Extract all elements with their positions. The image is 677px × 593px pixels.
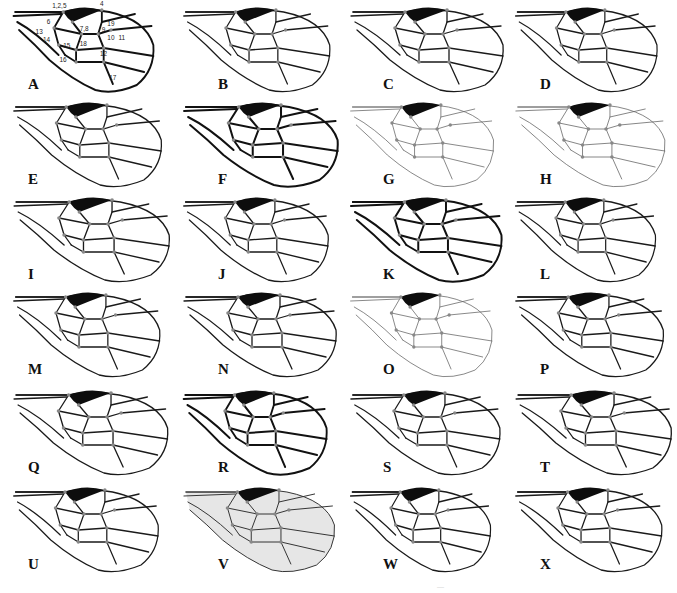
wing-panel-h: H xyxy=(510,95,677,192)
panel-label-u: U xyxy=(28,556,39,573)
panel-label-q: Q xyxy=(28,459,40,476)
wing-panel-f: F xyxy=(178,95,348,192)
landmark-number-15: 15 xyxy=(63,42,70,49)
landmark-number-78: 7,8 xyxy=(80,25,89,32)
wing-panel-v: V xyxy=(178,480,348,577)
wing-drawing xyxy=(178,480,346,577)
panel-label-w: W xyxy=(383,556,398,573)
wing-drawing xyxy=(345,190,513,287)
panel-label-h: H xyxy=(540,171,552,188)
wing-panel-k: K xyxy=(345,190,515,287)
wing-panel-i: I xyxy=(8,190,178,287)
wing-drawing xyxy=(510,190,666,287)
wing-panel-g: G xyxy=(345,95,515,192)
landmark-number-1: 1,2,5 xyxy=(52,2,67,9)
panel-label-d: D xyxy=(540,76,551,93)
landmark-number-17: 17 xyxy=(109,74,116,81)
wing-drawing xyxy=(178,383,338,480)
wing-panel-t: T xyxy=(510,383,677,480)
wing-panel-c: C xyxy=(345,0,515,97)
wing-drawing xyxy=(345,95,505,192)
panel-label-a: A xyxy=(28,76,39,93)
wing-panel-d: D xyxy=(510,0,677,97)
panel-label-n: N xyxy=(218,361,229,378)
wing-drawing xyxy=(345,0,515,97)
panel-label-v: V xyxy=(218,556,229,573)
landmark-number-13: 13 xyxy=(36,28,43,35)
wing-panel-o: O xyxy=(345,285,515,382)
landmark-number-4: 4 xyxy=(100,0,104,7)
wing-drawing xyxy=(178,190,340,287)
wing-panel-u: U xyxy=(8,480,178,577)
landmark-number-16: 16 xyxy=(60,56,67,63)
panel-label-b: B xyxy=(218,76,228,93)
wing-drawing xyxy=(510,383,677,480)
wing-drawing xyxy=(510,480,673,577)
landmark-number-12: 12 xyxy=(100,50,107,57)
wing-panel-l: L xyxy=(510,190,677,287)
landmark-number-6: 6 xyxy=(47,18,51,25)
landmark-number-14: 14 xyxy=(43,36,50,43)
panel-label-o: O xyxy=(383,361,395,378)
figure-footnote-mark: ― xyxy=(437,583,444,591)
panel-label-m: M xyxy=(28,361,42,378)
landmark-number-9: 9 xyxy=(102,26,106,33)
panel-label-x: X xyxy=(540,556,551,573)
wing-panel-q: Q xyxy=(8,383,178,480)
wing-panel-x: X xyxy=(510,480,677,577)
wing-panel-a: 1,2,54613147,891910111518121617 A xyxy=(8,0,178,97)
landmark-number-18: 18 xyxy=(80,40,87,47)
panel-label-s: S xyxy=(383,459,391,476)
panel-label-r: R xyxy=(218,459,229,476)
panel-label-p: P xyxy=(540,361,549,378)
wing-panel-m: M xyxy=(8,285,178,382)
wing-drawing xyxy=(510,0,668,97)
wing-plate: 1,2,54613147,891910111518121617 A xyxy=(0,0,677,580)
wing-drawing xyxy=(178,0,341,97)
wing-panel-e: E xyxy=(8,95,178,192)
wing-drawing xyxy=(345,285,503,382)
wing-drawing xyxy=(510,285,675,382)
wing-panel-r: R xyxy=(178,383,348,480)
panel-label-k: K xyxy=(383,266,395,283)
landmark-number-11: 11 xyxy=(118,34,125,41)
wing-drawing xyxy=(8,190,181,287)
panel-label-f: F xyxy=(218,171,227,188)
wing-drawing xyxy=(178,285,348,382)
wing-drawing xyxy=(178,95,350,192)
wing-panel-j: J xyxy=(178,190,348,287)
wing-panel-s: S xyxy=(345,383,515,480)
wing-panel-b: B xyxy=(178,0,348,97)
wing-panel-p: P xyxy=(510,285,677,382)
landmark-number-19: 19 xyxy=(107,20,114,27)
panel-label-t: T xyxy=(540,459,550,476)
panel-label-l: L xyxy=(540,266,550,283)
panel-label-j: J xyxy=(218,266,226,283)
panel-label-e: E xyxy=(28,171,38,188)
wing-drawing xyxy=(510,95,677,192)
wing-drawing xyxy=(345,480,501,577)
panel-label-i: I xyxy=(28,266,34,283)
landmark-number-10: 10 xyxy=(107,34,114,41)
panel-label-g: G xyxy=(383,171,395,188)
wing-drawing xyxy=(345,383,512,480)
wing-panel-n: N xyxy=(178,285,348,382)
wing-panel-w: W xyxy=(345,480,515,577)
panel-label-c: C xyxy=(383,76,394,93)
